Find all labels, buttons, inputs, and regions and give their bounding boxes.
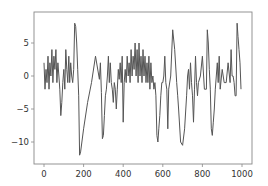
y-axis-ticks: 50−5−10 [11,38,34,147]
x-tick-label: 800 [194,169,210,179]
y-tick-label: 0 [24,71,29,81]
y-tick-label: 5 [24,38,29,48]
x-tick-label: 400 [115,169,131,179]
x-tick-label: 1000 [231,169,253,179]
x-tick-label: 200 [75,169,91,179]
line-chart: 50−5−10 02004006008001000 [0,0,268,186]
x-tick-label: 0 [41,169,46,179]
x-tick-label: 600 [155,169,171,179]
x-axis-ticks: 02004006008001000 [41,164,253,179]
y-tick-label: −10 [11,137,29,147]
plot-background [34,12,252,164]
y-tick-label: −5 [16,104,29,114]
